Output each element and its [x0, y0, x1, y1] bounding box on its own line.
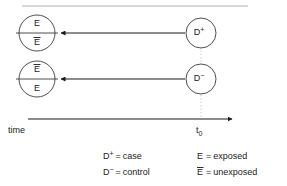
legend-left-column: D+=case D−=control [103, 150, 150, 178]
source-node-control: D− [186, 64, 216, 94]
case-node-sign: + [200, 25, 204, 32]
case-circle [186, 18, 216, 48]
legend-exposed-meaning: exposed [213, 151, 247, 161]
figure-canvas: E E E E D+ D− [0, 0, 287, 186]
case-node-label: D+ [194, 25, 205, 37]
legend-case-sign: + [110, 150, 114, 157]
legend-control-sign: − [110, 166, 114, 173]
legend-item-control: D−=control [103, 166, 150, 178]
legend-unexposed-symbol: E [197, 167, 203, 177]
case-control-diagram: E E E E D+ D− [0, 0, 287, 186]
outcome-node-bottom: E E [16, 61, 58, 97]
legend-exposed-equals: = [206, 151, 211, 161]
legend-case-equals: = [116, 151, 121, 161]
outcome-top-denominator: E [34, 37, 40, 47]
legend-exposed-symbol: E [197, 151, 203, 161]
outcome-top-numerator: E [34, 18, 40, 28]
legend-item-case: D+=case [103, 150, 142, 162]
legend-unexposed-meaning: unexposed [213, 167, 257, 177]
legend-item-exposed: E=exposed [197, 151, 247, 161]
legend-item-unexposed: E=unexposed [197, 167, 257, 177]
legend-control-equals: = [116, 167, 121, 177]
outcome-bottom-denominator: E [34, 83, 40, 93]
legend-unexposed-equals: = [206, 167, 211, 177]
legend-control-meaning: control [123, 167, 150, 177]
outcome-bottom-numerator: E [34, 64, 40, 74]
source-node-case: D+ [186, 18, 216, 48]
t-zero-subscript: 0 [199, 130, 203, 137]
control-circle [186, 64, 216, 94]
t-zero-label: t0 [196, 125, 203, 137]
legend-case-meaning: case [123, 151, 142, 161]
control-node-label: D− [194, 71, 205, 83]
outcome-node-top: E E [16, 15, 58, 51]
time-axis-label: time [8, 125, 25, 135]
legend-right-column: E=exposed E=unexposed [197, 151, 257, 177]
control-node-sign: − [200, 71, 204, 78]
